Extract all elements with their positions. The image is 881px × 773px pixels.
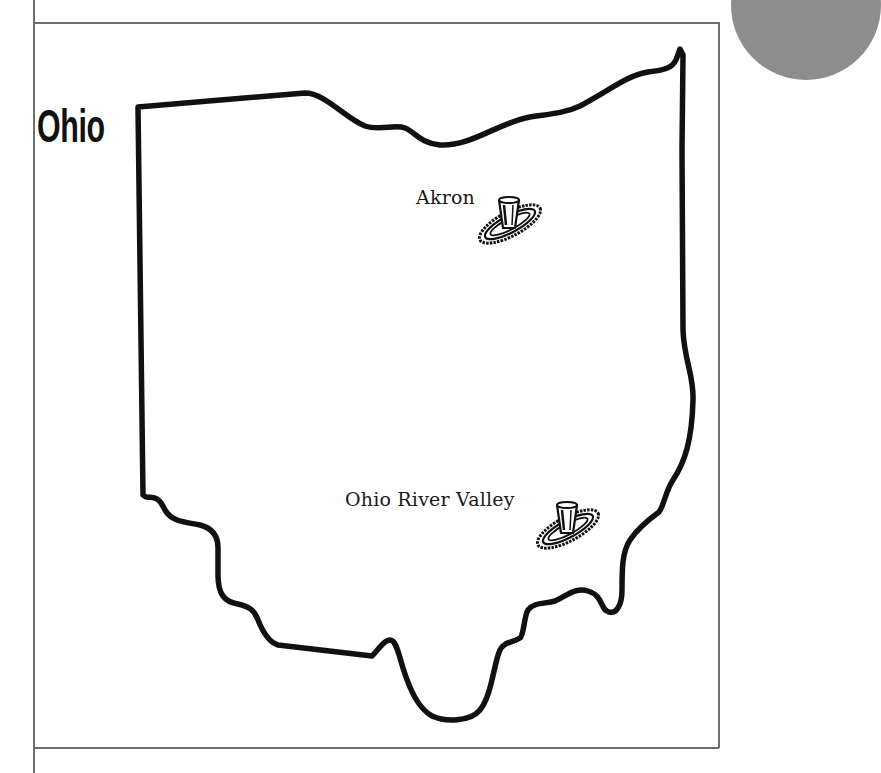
location-label-akron: Akron — [416, 186, 475, 208]
location-label-ohio-river-valley: Ohio River Valley — [345, 488, 515, 510]
tire-and-glass-icon — [530, 497, 606, 553]
corner-tab-circle — [731, 0, 881, 80]
tire-and-glass-icon — [472, 192, 548, 248]
